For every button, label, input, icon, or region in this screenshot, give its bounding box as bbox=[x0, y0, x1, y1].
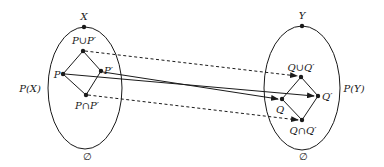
node-q-prime bbox=[316, 94, 320, 98]
label-q-join: Q∪Q′ bbox=[287, 62, 315, 73]
label-left-empty-set: ∅ bbox=[83, 151, 92, 162]
arrow-meet-to-meet bbox=[88, 95, 298, 120]
left-lattice bbox=[63, 51, 101, 95]
label-powerset-y: P(Y) bbox=[342, 83, 364, 94]
node-p bbox=[61, 72, 65, 76]
label-p: P bbox=[53, 69, 61, 80]
node-q-meet bbox=[300, 118, 304, 122]
left-powerset: X P∪P′ P P′ P∩P′ P(X) ∅ bbox=[18, 11, 122, 162]
left-top-dot bbox=[82, 25, 86, 29]
label-powerset-x: P(X) bbox=[18, 83, 41, 94]
label-q: Q bbox=[276, 104, 284, 115]
label-p-meet: P∩P′ bbox=[74, 100, 100, 111]
label-x: X bbox=[79, 11, 88, 22]
powerset-map-diagram: X P∪P′ P P′ P∩P′ P(X) ∅ Y Q∪Q′ Q Q′ Q∩Q′… bbox=[0, 0, 384, 167]
label-q-prime: Q′ bbox=[322, 91, 333, 102]
arrow-p-prime-to-q bbox=[103, 72, 278, 99]
label-q-meet: Q∩Q′ bbox=[289, 125, 317, 136]
node-q bbox=[280, 97, 284, 101]
right-powerset: Y Q∪Q′ Q Q′ Q∩Q′ P(Y) ∅ bbox=[264, 10, 365, 162]
label-p-prime: P′ bbox=[103, 65, 114, 76]
node-p-prime bbox=[99, 69, 103, 73]
node-p-join bbox=[81, 49, 85, 53]
right-top-dot bbox=[300, 24, 304, 28]
label-y: Y bbox=[299, 10, 307, 21]
label-right-empty-set: ∅ bbox=[299, 151, 308, 162]
node-p-meet bbox=[84, 93, 88, 97]
label-p-join: P∪P′ bbox=[71, 35, 97, 46]
node-q-join bbox=[299, 75, 303, 79]
right-lattice bbox=[282, 77, 318, 120]
